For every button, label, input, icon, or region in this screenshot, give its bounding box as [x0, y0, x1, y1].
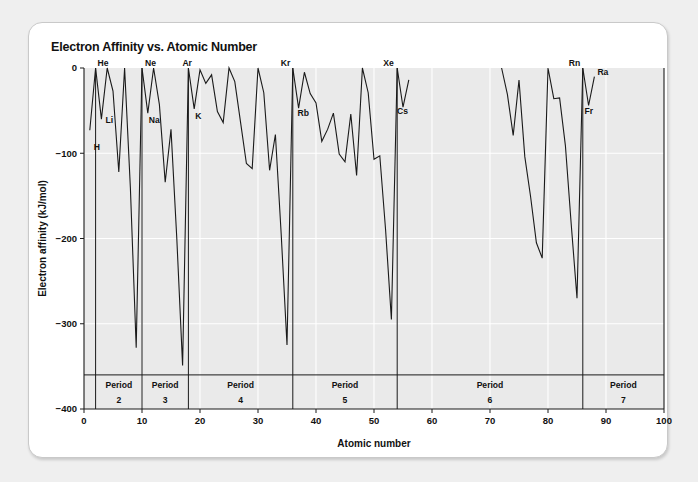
element-label-na: Na	[149, 115, 160, 125]
element-label-fr: Fr	[585, 106, 594, 116]
x-axis-title: Atomic number	[337, 438, 410, 449]
period-band-number: 2	[116, 395, 121, 405]
x-tick-label: 50	[369, 415, 380, 426]
x-tick-label: 70	[485, 415, 496, 426]
electron-affinity-line-chart: 0−100−200−300−4000102030405060708090100 …	[0, 0, 698, 482]
element-label-li: Li	[105, 115, 113, 125]
y-tick-label: 0	[72, 62, 77, 73]
x-tick-label: 60	[427, 415, 438, 426]
element-label-rb: Rb	[298, 108, 309, 118]
period-band-label: Period	[610, 380, 637, 390]
period-band-number: 3	[163, 395, 168, 405]
element-label-k: K	[195, 111, 202, 121]
element-label-he: He	[98, 58, 109, 68]
period-band-label: Period	[227, 380, 254, 390]
element-label-cs: Cs	[397, 106, 408, 116]
period-band-label: Period	[332, 380, 359, 390]
period-band-label: Period	[477, 380, 504, 390]
period-band-number: 4	[238, 395, 243, 405]
chart-figure: 0−100−200−300−4000102030405060708090100 …	[0, 0, 698, 482]
x-tick-label: 90	[601, 415, 612, 426]
x-tick-label: 30	[253, 415, 264, 426]
x-tick-label: 40	[311, 415, 322, 426]
x-tick-label: 100	[656, 415, 672, 426]
y-tick-label: −200	[56, 233, 77, 244]
element-label-ra: Ra	[597, 67, 608, 77]
element-label-ar: Ar	[182, 58, 192, 68]
x-tick-label: 20	[195, 415, 206, 426]
element-label-xe: Xe	[383, 58, 394, 68]
period-band-label: Period	[105, 380, 132, 390]
element-label-ne: Ne	[145, 58, 156, 68]
x-tick-label: 80	[543, 415, 554, 426]
y-tick-label: −100	[56, 148, 77, 159]
y-tick-label: −400	[56, 403, 77, 414]
x-tick-label: 0	[81, 415, 86, 426]
element-label-h: H	[94, 142, 100, 152]
y-tick-label: −300	[56, 318, 77, 329]
element-label-rn: Rn	[569, 58, 580, 68]
period-band-label: Period	[152, 380, 179, 390]
period-band-number: 6	[488, 395, 493, 405]
y-axis-title: Electron affinity (kJ/mol)	[37, 180, 48, 297]
period-band-number: 7	[621, 395, 626, 405]
element-label-kr: Kr	[281, 58, 291, 68]
x-tick-label: 10	[137, 415, 148, 426]
period-band-number: 5	[343, 395, 348, 405]
